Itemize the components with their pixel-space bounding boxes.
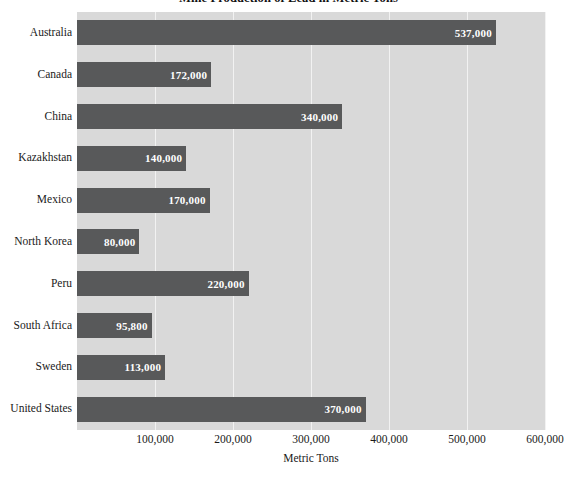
bar-value-label: 172,000: [170, 69, 207, 81]
bar-value-label: 220,000: [207, 278, 244, 290]
bar-value-label: 113,000: [125, 361, 162, 373]
bar-value-label: 170,000: [168, 194, 205, 206]
gridline: [389, 12, 390, 430]
bar-canada[interactable]: 172,000: [77, 62, 211, 87]
bar-value-label: 340,000: [301, 111, 338, 123]
bar-peru[interactable]: 220,000: [77, 271, 249, 296]
gridline: [467, 12, 468, 430]
x-tick-label: 200,000: [214, 433, 251, 445]
bar-value-label: 140,000: [145, 152, 182, 164]
category-label-mexico: Mexico: [0, 193, 72, 205]
x-tick-label: 400,000: [370, 433, 407, 445]
category-label-canada: Canada: [0, 68, 72, 80]
bar-china[interactable]: 340,000: [77, 104, 342, 129]
bar-value-label: 370,000: [324, 403, 361, 415]
plot-area: 537,000172,000340,000140,000170,00080,00…: [77, 12, 545, 430]
category-label-south-africa: South Africa: [0, 319, 72, 331]
x-tick-label: 600,000: [526, 433, 563, 445]
category-label-north-korea: North Korea: [0, 235, 72, 247]
gridline: [311, 12, 312, 430]
bar-value-label: 537,000: [455, 27, 492, 39]
bar-value-label: 80,000: [104, 236, 135, 248]
category-label-sweden: Sweden: [0, 360, 72, 372]
category-label-australia: Australia: [0, 26, 72, 38]
x-axis-title: Metric Tons: [77, 452, 545, 464]
bar-value-label: 95,800: [116, 320, 147, 332]
category-label-united-states: United States: [0, 402, 72, 414]
y-axis-category-labels: AustraliaCanadaChinaKazakhstanMexicoNort…: [0, 12, 72, 430]
bar-sweden[interactable]: 113,000: [77, 355, 165, 380]
bar-united-states[interactable]: 370,000: [77, 397, 366, 422]
chart-title: Mine Production of Lead in Metric Tons: [0, 0, 577, 6]
gridline: [233, 12, 234, 430]
bar-australia[interactable]: 537,000: [77, 20, 496, 45]
category-label-kazakhstan: Kazakhstan: [0, 151, 72, 163]
x-tick-label: 300,000: [292, 433, 329, 445]
bar-north-korea[interactable]: 80,000: [77, 229, 139, 254]
bar-kazakhstan[interactable]: 140,000: [77, 146, 186, 171]
category-label-china: China: [0, 110, 72, 122]
x-axis-tick-labels: 100,000200,000300,000400,000500,000600,0…: [77, 430, 545, 450]
bar-mexico[interactable]: 170,000: [77, 188, 210, 213]
gridline: [545, 12, 546, 430]
x-tick-label: 100,000: [136, 433, 173, 445]
category-label-peru: Peru: [0, 277, 72, 289]
bar-south-africa[interactable]: 95,800: [77, 313, 152, 338]
x-tick-label: 500,000: [448, 433, 485, 445]
